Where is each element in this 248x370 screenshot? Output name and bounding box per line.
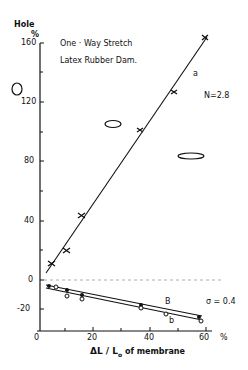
y-tick-120: 120 <box>21 98 36 106</box>
chart-title-line1: One · Way Stretch <box>60 40 132 48</box>
y-tick-80: 80 <box>24 157 34 165</box>
y-tick-minus20: -20 <box>17 305 30 313</box>
y-axis-title: Hole <box>14 21 34 29</box>
series-a-fit-line <box>46 37 207 273</box>
x-tick-0: 0 <box>34 334 39 342</box>
y-tick-160: 160 <box>21 39 36 47</box>
n-value-annotation: N=2.8 <box>204 92 229 100</box>
series-b-fit-line <box>46 288 202 320</box>
x-tick-40: 40 <box>144 334 154 342</box>
ellipse-hole-icon <box>105 121 121 128</box>
x-axis-title-tail: of membrane <box>122 347 185 356</box>
x-tick-60: 60 <box>199 334 209 342</box>
series-B-fit-line <box>46 285 202 316</box>
x-axis-unit: % <box>220 334 228 342</box>
y-tick-0: 0 <box>28 276 33 284</box>
series-a-markers <box>48 35 208 266</box>
series-a-label: a <box>193 70 198 78</box>
sigma-annotation: σ = 0.4 <box>206 298 236 306</box>
chart-title-line2: Latex Rubber Dam. <box>60 57 137 65</box>
flat-ellipse-hole-icon <box>178 153 204 159</box>
y-tick-40: 40 <box>24 217 34 225</box>
series-b-label: b <box>169 317 174 325</box>
x-axis-title: ΔL / Lo of membrane <box>90 347 185 358</box>
x-axis-title-main: ΔL / L <box>90 346 118 356</box>
x-tick-20: 20 <box>87 334 97 342</box>
circle-hole-icon <box>12 83 22 95</box>
series-B-label: B <box>165 298 171 306</box>
